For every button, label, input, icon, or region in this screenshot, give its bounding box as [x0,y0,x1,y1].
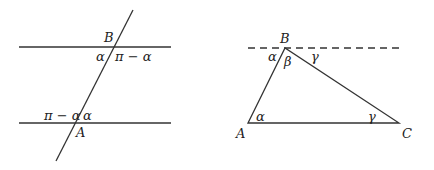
angle-label-alpha-top: α [96,49,105,64]
parallel-lines-figure: B α π − α π − α α A [19,10,171,161]
point-label-b-right: B [279,31,290,46]
triangle-figure: B α β γ α γ A C [235,31,412,141]
point-label-a-right: A [235,126,245,141]
transversal-line [56,10,133,161]
point-label-b-left: B [103,30,114,45]
angle-label-beta-at-b: β [283,54,292,69]
angle-label-gamma-at-b: γ [311,49,319,64]
point-label-a-left: A [75,125,85,140]
angle-label-alpha-at-b: α [268,49,277,64]
angle-label-alpha-at-a: α [256,109,265,124]
angle-label-gamma-at-c: γ [368,109,376,124]
point-label-c: C [402,126,412,141]
geometry-diagram: B α π − α π − α α A B α β γ α γ A C [0,0,434,170]
angle-label-pi-minus-alpha-top: π − α [114,49,152,64]
angle-label-alpha-bottom: α [83,108,92,123]
angle-label-pi-minus-alpha-bottom: π − α [43,108,81,123]
